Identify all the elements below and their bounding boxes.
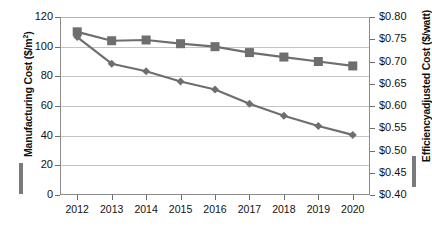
x-axis-tick xyxy=(181,195,182,200)
data-point-marker-diamond xyxy=(211,86,219,94)
right-axis-tick xyxy=(370,128,375,129)
plot-area xyxy=(60,17,370,195)
x-axis-tick xyxy=(249,195,250,200)
data-point-marker-square xyxy=(211,42,220,51)
right-axis-tick-label: $0.65 xyxy=(379,77,431,89)
right-axis-tick-label: $0.80 xyxy=(379,10,431,22)
right-axis-tick xyxy=(370,151,375,152)
right-axis-tick xyxy=(370,17,375,18)
left-axis-tick-label: 80 xyxy=(7,69,53,81)
left-axis-title-superscript: 2 xyxy=(22,35,29,39)
left-axis-title: Manufacturing Cost ($/m2) xyxy=(22,9,35,179)
right-axis-tick xyxy=(370,173,375,174)
data-point-marker-square xyxy=(142,35,151,44)
right-axis-tick-label: $0.50 xyxy=(379,144,431,156)
right-axis-tick-label: $0.70 xyxy=(379,55,431,67)
x-axis-tick xyxy=(77,195,78,200)
x-axis-tick xyxy=(215,195,216,200)
series-layer xyxy=(60,17,370,195)
right-axis-tick xyxy=(370,84,375,85)
data-point-marker-diamond xyxy=(314,122,322,130)
data-point-marker-square xyxy=(107,36,116,45)
left-axis-tick-label: 0 xyxy=(7,188,53,200)
right-axis-tick-label: $0.60 xyxy=(379,99,431,111)
x-axis-tick xyxy=(318,195,319,200)
data-point-marker-diamond xyxy=(349,131,357,139)
left-axis-tick-label: 60 xyxy=(7,99,53,111)
data-point-marker-diamond xyxy=(177,78,185,86)
x-axis-tick xyxy=(146,195,147,200)
left-axis-tick-label: 100 xyxy=(7,40,53,52)
data-point-marker-diamond xyxy=(142,67,150,75)
right-axis-tick-label: $0.55 xyxy=(379,121,431,133)
right-axis-tick-label: $0.40 xyxy=(379,188,431,200)
right-axis-tick-label: $0.45 xyxy=(379,166,431,178)
left-axis-title-tail: ) xyxy=(22,32,34,35)
data-point-marker-diamond xyxy=(280,112,288,120)
data-point-marker-diamond xyxy=(245,100,253,108)
left-axis-tick-label: 20 xyxy=(7,158,53,170)
right-axis-tick xyxy=(370,195,375,196)
data-point-marker-square xyxy=(279,53,288,62)
right-axis-tick xyxy=(370,39,375,40)
right-axis-tick xyxy=(370,62,375,63)
data-point-marker-square xyxy=(245,48,254,57)
data-point-marker-square xyxy=(176,39,185,48)
x-axis-tick-label: 2020 xyxy=(333,203,373,215)
left-axis-tick-label: 40 xyxy=(7,129,53,141)
data-point-marker-square xyxy=(348,61,357,70)
x-axis-tick xyxy=(112,195,113,200)
right-axis-tick-label: $0.75 xyxy=(379,32,431,44)
data-point-marker-square xyxy=(314,57,323,66)
left-axis-tick-label: 120 xyxy=(7,10,53,22)
right-axis-tick xyxy=(370,106,375,107)
x-axis-tick xyxy=(353,195,354,200)
left-axis-tick xyxy=(55,195,60,196)
x-axis-tick xyxy=(284,195,285,200)
